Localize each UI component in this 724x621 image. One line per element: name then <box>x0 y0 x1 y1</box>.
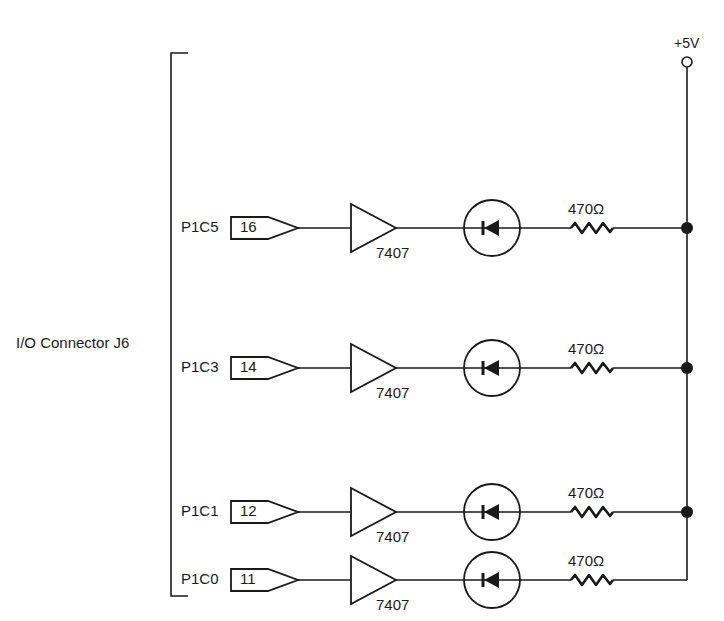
buffer-part-number: 7407 <box>376 245 409 260</box>
junction-dot-icon <box>681 222 693 234</box>
circuit-row <box>231 552 687 608</box>
buffer-part-number: 7407 <box>376 385 409 400</box>
resistor-zigzag-icon <box>571 363 613 373</box>
resistor-zigzag-icon <box>571 507 613 517</box>
signal-label: P1C5 <box>181 219 219 234</box>
resistor-value: 470Ω <box>568 201 604 216</box>
supply-terminal-icon <box>682 57 692 67</box>
junction-dot-icon <box>681 506 693 518</box>
pin-number: 14 <box>240 359 257 374</box>
signal-label: P1C1 <box>181 503 219 518</box>
resistor-zigzag-icon <box>571 223 613 233</box>
circuit-row <box>231 484 693 540</box>
pin-number: 11 <box>240 571 256 586</box>
resistor-zigzag-icon <box>571 575 613 585</box>
schematic-canvas <box>0 0 724 621</box>
buffer-part-number: 7407 <box>376 597 409 612</box>
resistor-value: 470Ω <box>568 341 604 356</box>
resistor-value: 470Ω <box>568 485 604 500</box>
pin-number: 16 <box>240 219 257 234</box>
signal-label: P1C0 <box>181 571 219 586</box>
buffer-part-number: 7407 <box>376 529 409 544</box>
circuit-row <box>231 340 693 396</box>
signal-label: P1C3 <box>181 359 219 374</box>
connector-label: I/O Connector J6 <box>16 335 129 350</box>
junction-dot-icon <box>681 362 693 374</box>
pin-number: 12 <box>240 503 257 518</box>
circuit-row <box>231 200 693 256</box>
resistor-value: 470Ω <box>568 553 604 568</box>
supply-label: +5V <box>674 36 699 50</box>
